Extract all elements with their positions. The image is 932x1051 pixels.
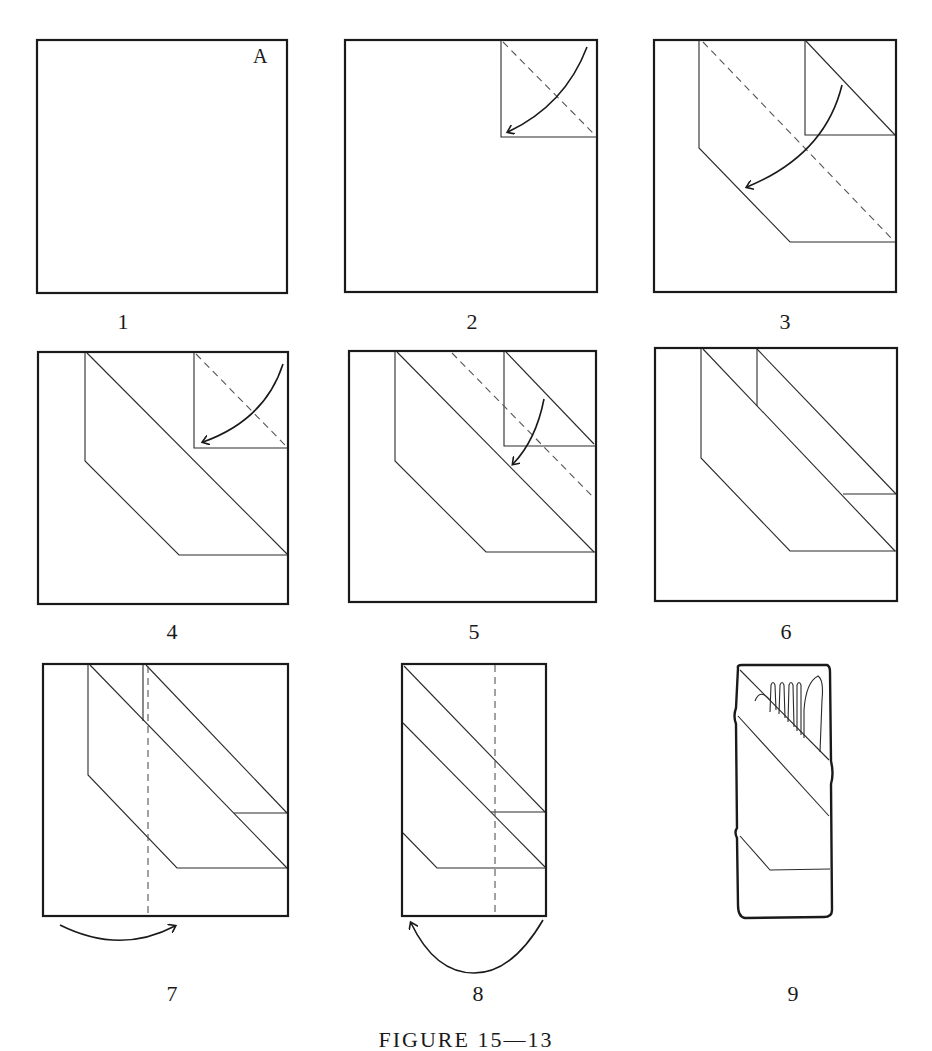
band-diagonal-lower <box>90 665 287 868</box>
step-4-panel <box>38 352 288 604</box>
corner-a-label: A <box>253 45 267 68</box>
corner-diagonal <box>805 40 895 135</box>
step-number-6: 6 <box>756 620 816 644</box>
corner-square-outline <box>504 352 595 446</box>
napkin-square <box>38 352 288 604</box>
corner-diagonal <box>506 352 594 444</box>
band-outline <box>85 353 287 555</box>
fold-line-dashed <box>503 42 595 135</box>
fold-under-arrow-icon <box>60 925 175 940</box>
corner-square-outline <box>194 353 287 448</box>
band-diagonal-upper <box>404 666 545 812</box>
step-number-1: 1 <box>93 310 153 334</box>
folded-flap-outline <box>699 40 895 242</box>
step-number-3: 3 <box>755 310 815 334</box>
step-number-5: 5 <box>444 620 504 644</box>
band-diagonal-lower <box>703 349 895 551</box>
step-6-panel <box>655 348 897 601</box>
fold-line-dashed <box>196 354 286 446</box>
pouch-fold-edge-middle <box>738 716 829 816</box>
step-5-panel <box>349 351 596 602</box>
fold-line-dashed <box>452 353 593 497</box>
knife-icon <box>804 676 823 752</box>
napkin-square <box>37 40 287 293</box>
napkin-square <box>654 40 896 292</box>
band-outline <box>403 833 545 868</box>
band-diagonal-lower <box>403 723 545 867</box>
step-number-2: 2 <box>442 310 502 334</box>
step-1-panel <box>37 40 287 293</box>
napkin-square <box>43 664 288 916</box>
band-diagonal <box>87 353 287 554</box>
step-number-8: 8 <box>448 982 508 1006</box>
fold-arrow-icon <box>747 85 842 187</box>
step-8-panel <box>402 664 546 973</box>
napkin-square <box>655 348 897 601</box>
spoon-icon <box>755 694 770 701</box>
fold-under-arrow-icon <box>411 920 543 973</box>
step-number-4: 4 <box>142 620 202 644</box>
band-diagonal-upper <box>146 665 287 813</box>
step-number-7: 7 <box>142 982 202 1006</box>
step-3-panel <box>654 40 896 292</box>
step-7-panel <box>43 664 288 940</box>
napkin-square <box>345 40 597 292</box>
step-2-panel <box>345 40 597 292</box>
fold-arrow-icon <box>203 364 283 442</box>
fold-line-dashed <box>703 42 893 240</box>
figure-caption: FIGURE 15—13 <box>0 1027 932 1051</box>
pouch-fold-edge-lower <box>740 836 830 870</box>
band-diagonal <box>397 352 594 552</box>
step-9-panel <box>735 665 833 918</box>
napkin-square <box>349 351 596 602</box>
napkin-pouch-outline <box>735 665 833 918</box>
band-diagonal-upper <box>757 349 896 494</box>
step-number-9: 9 <box>763 982 823 1006</box>
